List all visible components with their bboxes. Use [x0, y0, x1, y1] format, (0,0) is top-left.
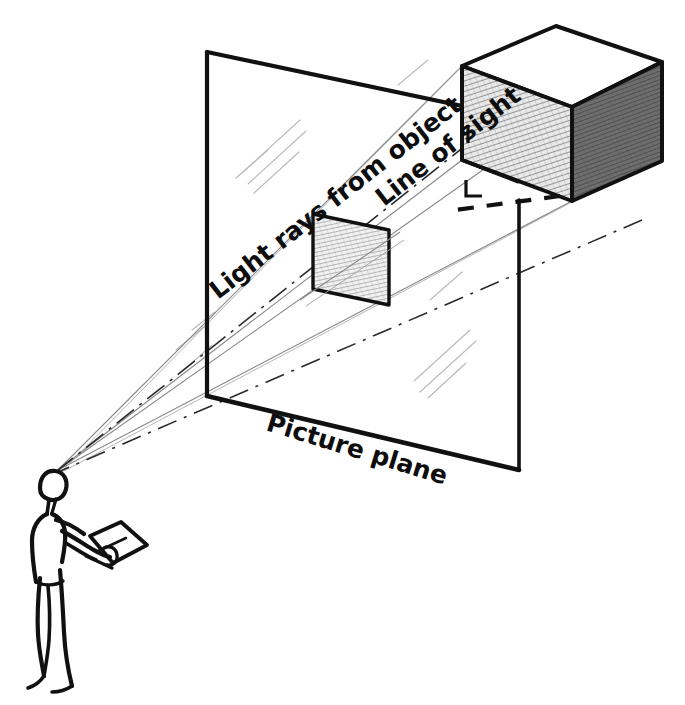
observer-head — [40, 471, 67, 500]
observer-foot-back — [28, 676, 44, 688]
observer-figure — [28, 471, 147, 692]
diagram-canvas: Light rays from object Line of sight Pic… — [0, 0, 685, 705]
perspective-diagram: Light rays from object Line of sight Pic… — [0, 0, 685, 705]
observer-foot-front — [52, 686, 72, 692]
observer-back — [32, 514, 47, 582]
observer-leg-front — [60, 570, 72, 686]
observer-leg-back — [38, 578, 44, 676]
